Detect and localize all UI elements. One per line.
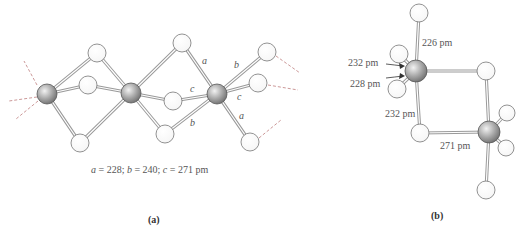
distance-bridge-horizontal: 271 pm: [440, 140, 471, 151]
panel-b-dimer: 226 pm 232 pm 228 pm 232 pm 271 pm (b): [348, 4, 515, 222]
bond-label-c-left: c: [190, 83, 195, 94]
figure-canvas: a b c c b a a = 228; b = 240; c = 271 pm…: [0, 0, 523, 231]
bonds-a: [47, 43, 267, 143]
distance-terminal-upper: 232 pm: [348, 57, 379, 68]
arrowheads: [399, 63, 405, 79]
distance-terminal-lower: 228 pm: [350, 78, 381, 89]
bond-length-legend: a = 228; b = 240; c = 271 pm: [91, 164, 208, 175]
bond-label-b-upper: b: [234, 59, 239, 70]
dashed-bonds-right: [259, 56, 300, 138]
bond-label-b-lower: b: [190, 117, 195, 128]
metal-atoms-a: [37, 83, 227, 104]
distance-bridge-vertical: 232 pm: [385, 108, 416, 119]
bond-label-a-lower: a: [239, 110, 244, 121]
panel-a-chain: a b c c b a a = 228; b = 240; c = 271 pm…: [9, 34, 300, 226]
bond-label-a-upper: a: [202, 55, 207, 66]
caption-a: (a): [148, 214, 160, 226]
distance-terminal-top: 226 pm: [422, 37, 453, 48]
ligand-atoms-b: [388, 4, 515, 199]
caption-b: (b): [431, 210, 443, 222]
bond-label-c-right: c: [237, 91, 242, 102]
dashed-bonds-left: [9, 61, 38, 119]
